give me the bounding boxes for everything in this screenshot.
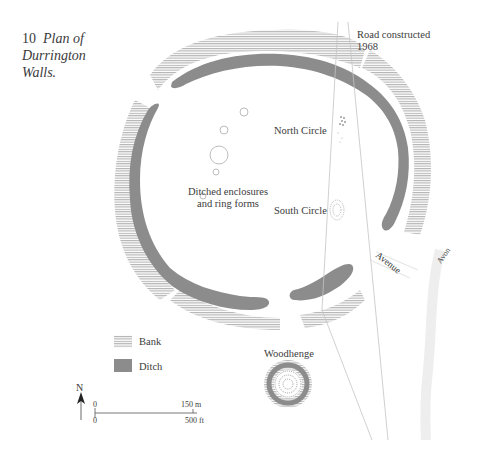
figure-title-line1: Plan of xyxy=(43,31,84,46)
road-label-line1: Road constructed xyxy=(357,29,430,41)
scale-top-left: 0 xyxy=(93,400,97,409)
bank-segments xyxy=(114,30,431,330)
legend-ditch-swatch xyxy=(114,359,132,372)
enclosures-label: Ditched enclosures and ring forms xyxy=(176,186,280,210)
avon-river xyxy=(425,250,440,440)
north-label: N xyxy=(76,382,83,393)
scale-bottom-left: 0 xyxy=(93,416,97,425)
legend-ditch-label: Ditch xyxy=(139,361,162,373)
road-label: Road constructed 1968 xyxy=(357,29,430,53)
scale-top-right: 150 m xyxy=(181,400,201,409)
legend-bank-swatch xyxy=(114,335,132,348)
south-circle-posts xyxy=(330,200,344,220)
figure-title-line2: Durrington xyxy=(22,48,86,63)
enclosures-label-line1: Ditched enclosures xyxy=(176,186,280,198)
woodhenge-plan xyxy=(264,360,312,408)
woodhenge-label: Woodhenge xyxy=(264,348,314,360)
legend-bank-label: Bank xyxy=(139,336,161,348)
figure-number: 10 xyxy=(22,31,36,46)
south-circle-label: South Circle xyxy=(274,205,327,217)
scale-bottom-right: 500 ft xyxy=(185,416,204,425)
north-circle-label: North Circle xyxy=(274,125,327,137)
scale-bar xyxy=(95,408,197,418)
north-circle-posts xyxy=(337,116,345,142)
road-label-line2: 1968 xyxy=(357,41,430,53)
figure-caption: 10 Plan of Durrington Walls. xyxy=(22,30,132,81)
ditch-segments xyxy=(129,54,409,310)
figure-title-line3: Walls. xyxy=(22,65,56,80)
enclosures-label-line2: and ring forms xyxy=(176,198,280,210)
north-arrow-icon xyxy=(77,392,85,420)
